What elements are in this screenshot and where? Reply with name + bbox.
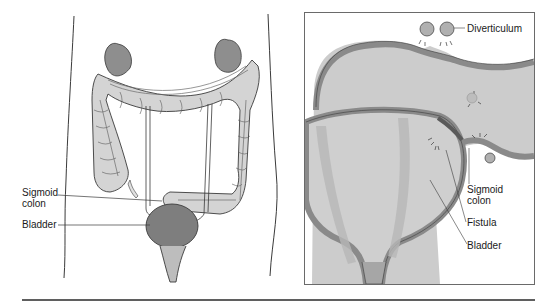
small-perforation <box>467 93 477 103</box>
colon <box>92 60 259 214</box>
label-sigmoid-colon-left: Sigmoid colon <box>22 187 58 209</box>
label-bladder-left: Bladder <box>22 219 56 230</box>
kidneys <box>105 39 242 76</box>
label-fistula: Fistula <box>467 217 496 228</box>
diagram-canvas <box>0 0 559 302</box>
label-bladder-right: Bladder <box>467 240 501 251</box>
label-diverticulum: Diverticulum <box>467 23 522 34</box>
bladder-left <box>146 204 198 282</box>
appendix <box>128 180 138 198</box>
urethra <box>362 262 386 284</box>
label-sigmoid-colon-right: Sigmoid colon <box>467 184 503 206</box>
